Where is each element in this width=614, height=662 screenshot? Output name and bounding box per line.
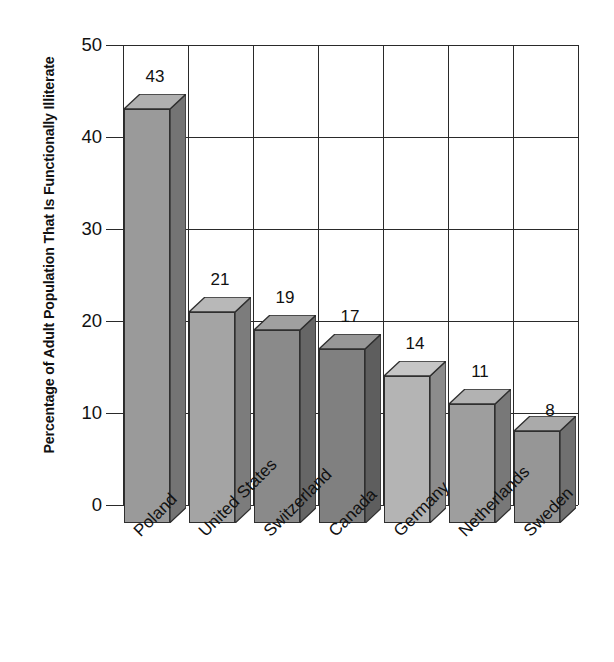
bar-front-face [189, 312, 235, 523]
gridline-v-7 [578, 45, 579, 505]
value-label-sweden: 8 [520, 401, 580, 421]
y-tick-mark-50 [106, 45, 123, 46]
gridline-h-30 [123, 229, 578, 230]
y-axis-tick-marks [106, 45, 123, 505]
y-tick-mark-10 [106, 413, 123, 414]
gridline-h-50 [123, 45, 578, 46]
bar-chart: Percentage of Adult Population That Is F… [0, 0, 614, 662]
value-label-germany: 14 [385, 334, 445, 354]
y-axis-tick-labels: 01020304050 [56, 45, 102, 505]
y-tick-label-30: 30 [62, 218, 102, 240]
y-tick-label-20: 20 [62, 310, 102, 332]
value-label-poland: 43 [125, 67, 185, 87]
bar-poland [124, 94, 186, 523]
gridline-h-40 [123, 137, 578, 138]
y-tick-label-40: 40 [62, 126, 102, 148]
y-tick-mark-40 [106, 137, 123, 138]
y-tick-label-50: 50 [62, 34, 102, 56]
value-label-netherlands: 11 [450, 362, 510, 382]
value-label-canada: 17 [320, 307, 380, 327]
y-tick-mark-0 [106, 505, 123, 506]
bar-front-face [124, 109, 170, 523]
y-tick-label-10: 10 [62, 402, 102, 424]
y-tick-mark-20 [106, 321, 123, 322]
value-label-united-states: 21 [190, 270, 250, 290]
y-tick-label-0: 0 [62, 494, 102, 516]
value-label-switzerland: 19 [255, 288, 315, 308]
bar-side-face [170, 94, 186, 523]
y-tick-mark-30 [106, 229, 123, 230]
